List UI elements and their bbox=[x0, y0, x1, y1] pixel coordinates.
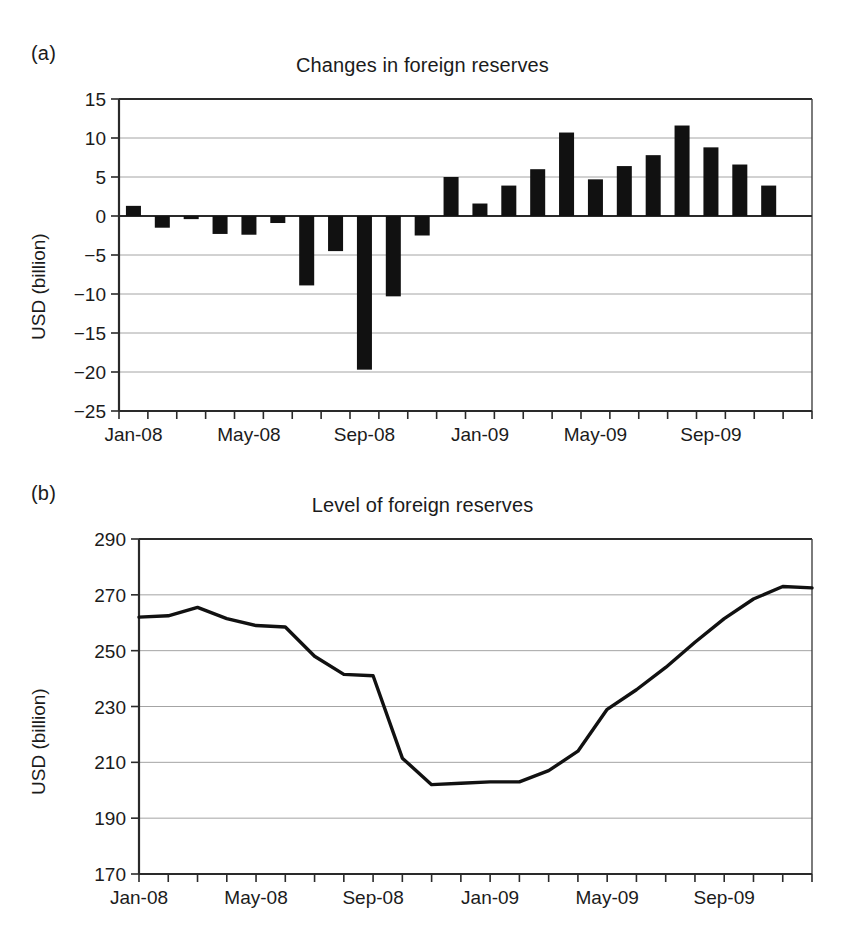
chart-a-xtick-label: Jan-08 bbox=[104, 424, 162, 445]
chart-a-ytick-label: −25 bbox=[74, 401, 106, 422]
chart-b-ytick-label: 170 bbox=[94, 864, 126, 885]
chart-a-xtick-label: May-08 bbox=[217, 424, 280, 445]
figure-two-panel-foreign-reserves: (a) Changes in foreign reserves USD (bil… bbox=[0, 0, 845, 938]
chart-a-ytick-label: −20 bbox=[74, 362, 106, 383]
chart-b-ytick-label: 210 bbox=[94, 752, 126, 773]
chart-b-xtick-label: May-09 bbox=[575, 887, 638, 908]
chart-a-bar bbox=[761, 186, 776, 216]
chart-b-xtick-label: Sep-08 bbox=[342, 887, 403, 908]
chart-a-bar bbox=[675, 126, 690, 216]
chart-a-bar bbox=[646, 155, 661, 216]
chart-b-series-line bbox=[139, 586, 812, 784]
chart-a-bar bbox=[299, 216, 314, 285]
chart-a-ytick-label: 5 bbox=[95, 167, 106, 188]
chart-b-xtick-label: Jan-09 bbox=[461, 887, 519, 908]
chart-a-bar bbox=[155, 216, 170, 228]
chart-a-bar bbox=[357, 216, 372, 370]
chart-b-ytick-label: 270 bbox=[94, 585, 126, 606]
chart-a-bar bbox=[126, 206, 141, 216]
chart-a-bar bbox=[386, 216, 401, 296]
chart-a-ytick-label: −15 bbox=[74, 323, 106, 344]
chart-a-bar bbox=[617, 166, 632, 216]
chart-a-ytick-label: 10 bbox=[85, 128, 106, 149]
chart-b-ytick-label: 250 bbox=[94, 641, 126, 662]
chart-a-bar bbox=[328, 216, 343, 251]
chart-a-ytick-label: 15 bbox=[85, 89, 106, 110]
chart-a-bar bbox=[732, 165, 747, 216]
chart-b-xtick-label: May-08 bbox=[224, 887, 287, 908]
chart-a-bar bbox=[501, 186, 516, 216]
chart-a-xtick-label: Jan-09 bbox=[451, 424, 509, 445]
chart-a-ytick-label: −5 bbox=[84, 245, 106, 266]
chart-a-bar bbox=[472, 204, 487, 216]
chart-b-xtick-label: Jan-08 bbox=[110, 887, 168, 908]
chart-b-ytick-label: 190 bbox=[94, 808, 126, 829]
chart-b-plot-area: 290270250230210190170Jan-08May-08Sep-08J… bbox=[0, 470, 845, 938]
panel-a-changes-in-foreign-reserves: (a) Changes in foreign reserves USD (bil… bbox=[0, 0, 845, 470]
chart-a-plot-area: 151050−5−10−15−20−25Jan-08May-08Sep-08Ja… bbox=[0, 0, 845, 470]
chart-a-xtick-label: May-09 bbox=[564, 424, 627, 445]
chart-b-xtick-label: Sep-09 bbox=[694, 887, 755, 908]
chart-a-bar bbox=[530, 169, 545, 216]
chart-b-ytick-label: 290 bbox=[94, 529, 126, 550]
chart-a-bar bbox=[415, 216, 430, 236]
panel-b-level-of-foreign-reserves: (b) Level of foreign reserves USD (billi… bbox=[0, 470, 845, 938]
chart-b-ytick-label: 230 bbox=[94, 697, 126, 718]
chart-a-xtick-label: Sep-09 bbox=[680, 424, 741, 445]
chart-a-bar bbox=[241, 216, 256, 235]
chart-a-ytick-label: −10 bbox=[74, 284, 106, 305]
chart-a-ytick-label: 0 bbox=[95, 206, 106, 227]
chart-a-bar bbox=[270, 216, 285, 223]
chart-a-bar bbox=[559, 133, 574, 216]
chart-a-bar bbox=[213, 216, 228, 234]
chart-a-bar bbox=[588, 179, 603, 216]
chart-a-bar bbox=[703, 147, 718, 216]
chart-a-bar bbox=[184, 216, 199, 219]
chart-a-bar bbox=[444, 177, 459, 216]
chart-a-xtick-label: Sep-08 bbox=[334, 424, 395, 445]
